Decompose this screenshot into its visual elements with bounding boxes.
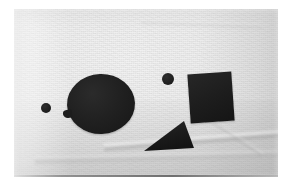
triangle-glyph	[144, 121, 194, 151]
shape-dot-left	[41, 103, 51, 113]
shape-triangle	[144, 121, 194, 151]
shape-square	[187, 71, 234, 123]
margin-bottom	[0, 177, 295, 194]
margin-right	[278, 0, 295, 194]
shape-dot-mid	[162, 73, 174, 85]
photograph	[14, 9, 278, 177]
margin-left	[0, 0, 14, 194]
cloth-shading-left	[14, 9, 72, 177]
image-canvas: Five dark cut-out shapes on pale cloth: …	[0, 0, 295, 194]
margin-top	[0, 0, 295, 9]
